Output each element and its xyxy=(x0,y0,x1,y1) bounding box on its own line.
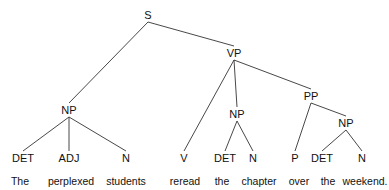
node-det: DET xyxy=(214,152,236,164)
edge-pp-p xyxy=(295,103,311,151)
terminal-word: reread xyxy=(170,175,200,187)
terminal-word: The xyxy=(11,175,29,187)
edge-s-np1 xyxy=(69,22,148,103)
terminal-word: perplexed xyxy=(48,175,94,187)
node-det: DET xyxy=(311,152,333,164)
terminal-word: weekend. xyxy=(343,175,388,187)
node-s: S xyxy=(144,9,151,21)
edge-s-vp xyxy=(148,22,234,46)
terminal-word: the xyxy=(321,175,336,187)
node-n: N xyxy=(358,152,366,164)
terminal-word: over xyxy=(289,175,309,187)
node-np: NP xyxy=(338,117,353,129)
node-v: V xyxy=(180,152,187,164)
edge-pp-np3 xyxy=(311,103,346,116)
node-p: P xyxy=(291,152,298,164)
node-n: N xyxy=(249,152,257,164)
edge-np1-n1 xyxy=(69,117,126,151)
node-n: N xyxy=(122,152,130,164)
edge-np3-n3 xyxy=(346,130,362,151)
tree-edges xyxy=(23,22,362,151)
node-np: NP xyxy=(229,108,244,120)
terminal-word: students xyxy=(106,175,146,187)
node-pp: PP xyxy=(304,90,319,102)
edge-np1-det1 xyxy=(23,117,69,151)
edge-vp-np2 xyxy=(234,60,237,107)
terminal-word: the xyxy=(215,175,230,187)
edge-vp-v xyxy=(184,60,234,151)
edge-np3-det3 xyxy=(322,130,346,151)
terminal-word: chapter xyxy=(241,175,276,187)
node-vp: VP xyxy=(227,47,242,59)
edge-np2-n2 xyxy=(237,121,253,151)
node-adj: ADJ xyxy=(59,152,80,164)
node-det: DET xyxy=(12,152,34,164)
edge-vp-pp xyxy=(234,60,311,89)
node-np: NP xyxy=(61,104,76,116)
edge-np2-det2 xyxy=(225,121,237,151)
